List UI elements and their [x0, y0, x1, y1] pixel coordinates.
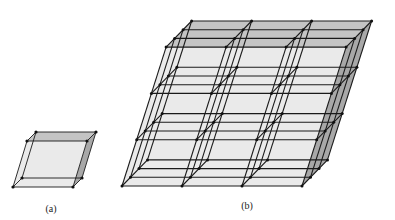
lattice-point: [347, 75, 350, 78]
lattice-point: [250, 20, 253, 23]
lattice-point: [330, 92, 333, 95]
lattice-point: [345, 46, 348, 49]
lattice-point: [293, 37, 296, 40]
lattice-point: [158, 83, 161, 86]
lattice-point: [94, 130, 97, 133]
lattice-point: [309, 176, 312, 179]
lattice-point: [161, 112, 164, 115]
panel-a-caption: (a): [45, 203, 56, 214]
lattice-point: [258, 167, 261, 170]
lattice-point: [198, 167, 201, 170]
lattice-point: [295, 66, 298, 69]
lattice-point: [150, 92, 153, 95]
lattice-point: [129, 176, 132, 179]
lattice-point: [25, 139, 28, 142]
lattice-point: [20, 176, 23, 179]
lattice-point: [241, 185, 244, 188]
lattice-point: [206, 158, 209, 161]
top-face: [166, 21, 372, 47]
lattice-point: [181, 185, 184, 188]
lattice-point: [278, 83, 281, 86]
lattice-point: [34, 130, 37, 133]
lattice-point: [287, 75, 290, 78]
lattice-point: [212, 121, 215, 124]
lattice-point: [264, 130, 267, 133]
lattice-point: [326, 158, 329, 161]
lattice-point: [353, 37, 356, 40]
lattice-point: [315, 138, 318, 141]
lattice-point: [152, 121, 155, 124]
lattice-point: [242, 28, 245, 31]
lattice-point: [235, 66, 238, 69]
lattice-point: [225, 46, 228, 49]
top-face: [27, 132, 96, 141]
lattice-point: [138, 167, 141, 170]
lattice-point: [332, 121, 335, 124]
crystal-lattice-3x3x3: [121, 20, 374, 188]
lattice-point: [362, 28, 365, 31]
lattice-point: [272, 121, 275, 124]
lattice-point: [182, 28, 185, 31]
lattice-point: [218, 83, 221, 86]
panel-b-caption: (b): [241, 200, 253, 211]
lattice-point: [221, 112, 224, 115]
lattice-point: [255, 138, 258, 141]
single-unit-cell: [11, 130, 97, 188]
lattice-point: [71, 185, 74, 188]
lattice-point: [249, 176, 252, 179]
lattice-point: [318, 167, 321, 170]
lattice-point: [175, 66, 178, 69]
lattice-point: [195, 138, 198, 141]
lattice-point: [189, 176, 192, 179]
lattice-point: [302, 28, 305, 31]
lattice-point: [135, 138, 138, 141]
lattice-point: [341, 112, 344, 115]
lattice-point: [11, 185, 14, 188]
lattice-point: [204, 130, 207, 133]
lattice-point: [370, 20, 373, 23]
lattice-point: [85, 139, 88, 142]
lattice-point: [338, 83, 341, 86]
lattice-point: [210, 92, 213, 95]
lattice-point: [324, 130, 327, 133]
lattice-point: [80, 176, 83, 179]
lattice-point: [301, 185, 304, 188]
lattice-point: [233, 37, 236, 40]
lattice-point: [190, 20, 193, 23]
lattice-point: [165, 46, 168, 49]
lattice-point: [281, 112, 284, 115]
lattice-point: [144, 130, 147, 133]
lattice-point: [146, 158, 149, 161]
lattice-point: [173, 37, 176, 40]
lattice-diagram: [0, 0, 395, 220]
lattice-point: [121, 185, 124, 188]
lattice-point: [167, 75, 170, 78]
lattice-point: [266, 158, 269, 161]
lattice-point: [270, 92, 273, 95]
lattice-point: [310, 20, 313, 23]
lattice-point: [285, 46, 288, 49]
lattice-point: [355, 66, 358, 69]
lattice-point: [227, 75, 230, 78]
